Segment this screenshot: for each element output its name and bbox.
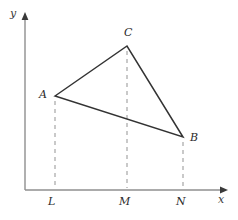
y-axis — [22, 12, 29, 190]
y-axis-arrow-icon — [22, 12, 29, 20]
geometry-figure: y x L M N A C B — [0, 0, 238, 220]
y-axis-label: y — [10, 8, 16, 19]
tick-label-n: N — [176, 196, 186, 207]
vertex-label-c: C — [124, 27, 132, 38]
triangle-abc — [55, 46, 183, 137]
tick-label-m: M — [119, 196, 130, 207]
dropdown-lines — [55, 51, 183, 188]
vertex-label-a: A — [39, 89, 47, 100]
x-axis-label: x — [218, 194, 224, 205]
vertex-label-b: B — [190, 132, 198, 143]
tick-label-l: L — [48, 196, 55, 207]
figure-canvas — [0, 0, 238, 220]
